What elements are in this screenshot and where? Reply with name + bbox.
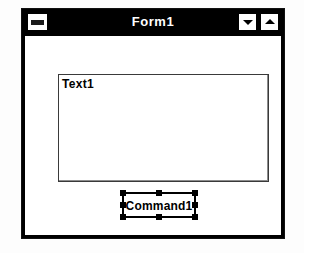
selection-handle-w[interactable] [120,202,126,208]
textbox-control-text1[interactable]: Text1 [58,74,269,182]
textbox-value: Text1 [62,77,94,91]
minimize-button[interactable] [238,13,257,31]
selection-handle-s[interactable] [156,214,162,220]
selection-handle-ne[interactable] [192,190,198,196]
arrow-down-icon [243,20,253,25]
selection-handle-nw[interactable] [120,190,126,196]
maximize-button[interactable] [260,13,279,31]
title-bar[interactable]: Form1 [24,11,282,35]
selection-handle-sw[interactable] [120,214,126,220]
selection-handle-e[interactable] [192,202,198,208]
command-button-control-command1[interactable]: Command1 [120,190,198,220]
arrow-up-icon [265,19,275,24]
command-button-label: Command1 [124,199,194,213]
selection-handle-se[interactable] [192,214,198,220]
selection-handle-n[interactable] [156,190,162,196]
form-client-area[interactable]: Text1 Command1 [25,36,281,235]
form-designer-window: Form1 Text1 Command1 [21,8,285,239]
